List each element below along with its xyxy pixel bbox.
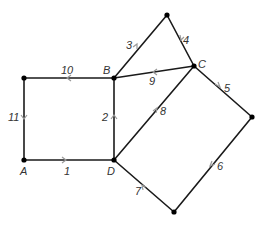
edge-label-5: 5	[224, 82, 231, 94]
edge-label-1: 1	[64, 165, 70, 177]
node-A	[21, 157, 26, 162]
edge-label-4: 4	[183, 34, 189, 46]
edge-label-10: 10	[61, 64, 74, 76]
graph-diagram: B C A D 1 2 3 4 5 6 7 8 9 10 11	[0, 0, 268, 227]
node-C	[191, 63, 196, 68]
arrow-icon-3	[133, 44, 137, 49]
vertex-label-C: C	[198, 58, 206, 70]
node-right	[249, 114, 254, 119]
vertex-label-B: B	[103, 64, 110, 76]
edge-3	[114, 15, 167, 78]
edge-label-9: 9	[149, 75, 155, 87]
edge-label-7: 7	[135, 185, 142, 197]
edge-label-6: 6	[217, 160, 224, 172]
edge-label-8: 8	[160, 105, 167, 117]
node-top-left	[21, 75, 26, 80]
node-bottom	[171, 209, 176, 214]
vertex-label-A: A	[19, 165, 27, 177]
edge-5	[194, 66, 252, 117]
edge-label-2: 2	[101, 111, 108, 123]
node-B	[111, 75, 116, 80]
vertex-label-D: D	[107, 165, 115, 177]
edge-label-11: 11	[8, 111, 19, 123]
node-top	[164, 12, 169, 17]
edge-label-3: 3	[126, 39, 133, 51]
node-D	[111, 157, 116, 162]
